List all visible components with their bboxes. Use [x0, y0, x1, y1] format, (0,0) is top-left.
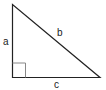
label-side-a: a [3, 36, 9, 47]
label-side-c: c [54, 79, 59, 90]
right-angle-marker [13, 63, 26, 78]
label-side-b: b [57, 27, 63, 38]
right-triangle-diagram: a b c [0, 0, 106, 90]
